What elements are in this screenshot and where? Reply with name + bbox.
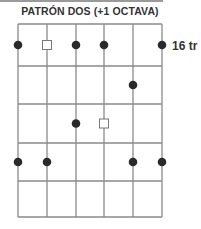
note-dot (158, 41, 167, 50)
note-dot (72, 119, 81, 128)
fret-position-label: 16 tr (172, 39, 197, 53)
note-dot (158, 158, 167, 167)
note-dot (14, 41, 23, 50)
note-dot (14, 158, 23, 167)
fretboard-diagram (0, 0, 201, 229)
grid-lines (18, 24, 162, 217)
root-note-square (100, 119, 109, 128)
note-dot (72, 41, 81, 50)
note-dot (43, 158, 52, 167)
note-dot (129, 158, 138, 167)
note-dot (100, 41, 109, 50)
note-dot (129, 81, 138, 90)
root-note-square (43, 41, 52, 50)
